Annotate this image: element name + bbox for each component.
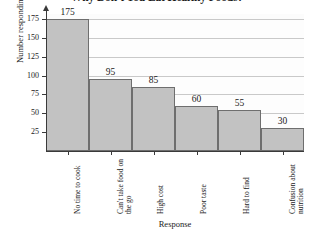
y-tick-label: 50 [13, 109, 39, 117]
bar [89, 79, 132, 151]
y-tick-label: 100 [13, 72, 39, 80]
bar [132, 87, 175, 151]
x-category-label: Can't take food on the go [117, 156, 134, 214]
x-axis-line [46, 151, 304, 152]
x-tick-mark [197, 151, 198, 155]
x-category-label: No time to cook [74, 156, 82, 214]
y-tick-mark [42, 132, 47, 133]
y-tick-mark [42, 38, 47, 39]
y-axis-line [46, 10, 47, 152]
x-category-label: Hard to find [243, 177, 251, 214]
bar [218, 110, 261, 151]
bar-value-label: 55 [218, 98, 261, 108]
bar-value-label: 95 [89, 67, 132, 77]
y-tick-label: 150 [13, 34, 39, 42]
x-tick-mark [240, 151, 241, 155]
y-tick-mark [42, 19, 47, 20]
y-tick-mark [42, 113, 47, 114]
y-tick-mark [42, 94, 47, 95]
x-axis-title: Response [46, 219, 304, 229]
x-tick-mark [154, 151, 155, 155]
chart-title: Why Don't You Eat Healthy Foods? [0, 0, 314, 3]
bar-chart: Why Don't You Eat Healthy Foods? Number … [0, 0, 314, 234]
y-tick-mark [42, 57, 47, 58]
plot-area [46, 19, 304, 151]
y-tick-label: 125 [13, 53, 39, 61]
bar-value-label: 175 [46, 7, 89, 17]
x-tick-mark [111, 151, 112, 155]
bar-value-label: 60 [175, 94, 218, 104]
x-category-label: Poor taste [200, 184, 208, 214]
y-tick-label: 25 [13, 128, 39, 136]
bar [46, 19, 89, 151]
bar [175, 106, 218, 151]
x-category-label: High cost [157, 185, 165, 214]
x-tick-mark [68, 151, 69, 155]
x-tick-mark [283, 151, 284, 155]
x-category-label: Confusion about nutrition [289, 156, 306, 214]
bar-value-label: 85 [132, 75, 175, 85]
y-tick-label: 175 [13, 15, 39, 23]
bar-value-label: 30 [261, 116, 304, 126]
y-tick-mark [42, 76, 47, 77]
bar [261, 128, 304, 151]
y-tick-label: 75 [13, 90, 39, 98]
